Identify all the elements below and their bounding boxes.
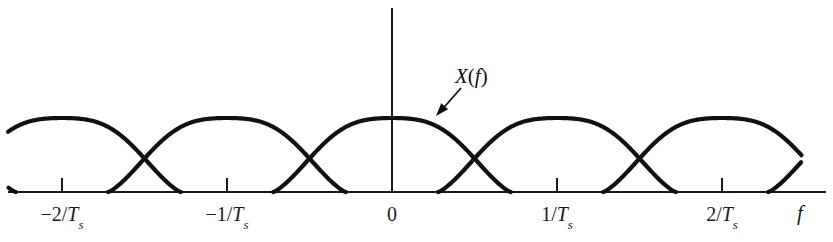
spectrum-curves — [8, 118, 801, 192]
axis-variable-label: f — [797, 203, 803, 224]
axes-group — [8, 8, 826, 192]
axis-tick-label: −1/Ts — [205, 204, 248, 228]
curve-label-paren-close: ) — [481, 64, 488, 88]
axis-tick-label: −2/Ts — [40, 204, 83, 228]
spectrum-replica-curve — [768, 162, 801, 192]
spectrum-figure: −2/Ts−1/Ts01/Ts2/Ts X(f) f — [0, 0, 833, 242]
annotation-arrow-group — [436, 88, 461, 116]
curve-label-x: X — [455, 64, 468, 88]
axis-tick-label: 0 — [387, 204, 397, 224]
curve-label-paren-open: ( — [468, 64, 475, 88]
spectrum-replica-curve — [8, 118, 181, 192]
axis-tick-label: 2/Ts — [706, 204, 738, 228]
axis-tick-label: 1/Ts — [541, 204, 573, 228]
curve-label-xf: X(f) — [455, 66, 488, 87]
spectrum-replica-curve — [603, 118, 801, 192]
